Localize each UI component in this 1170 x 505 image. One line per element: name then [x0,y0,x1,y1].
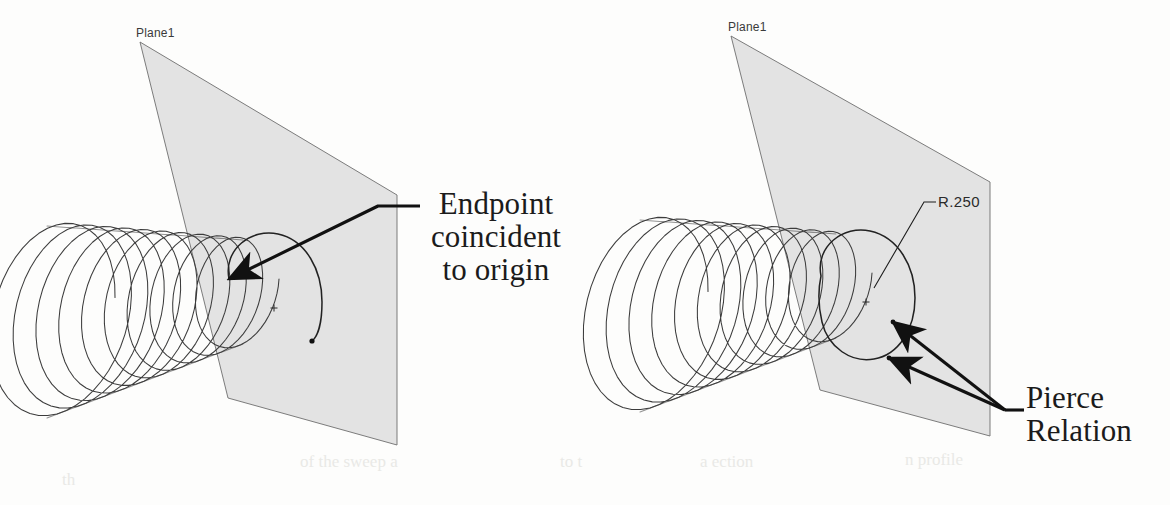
plane-label-left: Plane1 [136,26,175,40]
scan-bleed-text: to t [560,452,582,472]
scan-bleed-text: n profile [905,450,963,470]
endpoint-coincident-figure [0,42,420,445]
radius-dimension-label: R.250 [938,193,980,210]
scan-bleed-text: of the sweep a [300,452,398,472]
pierce-relation-annotation: Pierce Relation [1026,382,1170,448]
plane-label-right: Plane1 [728,20,767,34]
reference-plane [731,36,990,436]
pierce-relation-figure [583,36,1024,436]
helix-envelope-lower [47,344,243,418]
endpoint-coincident-annotation: Endpoint coincident to origin [404,188,588,287]
illustration-root: Plane1 Plane1 R.250 Endpoint coincident … [0,0,1170,505]
reference-plane [140,42,397,445]
sketch-endpoint-dot [309,338,314,343]
helix-envelope-lower [640,338,836,412]
scan-bleed-text: a ection [700,452,753,472]
scan-bleed-text: th [62,470,75,490]
